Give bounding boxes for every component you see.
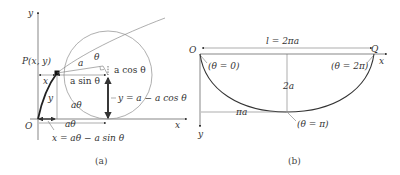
half-width-label: πa	[235, 107, 247, 117]
caption-a: (a)	[95, 156, 107, 166]
cycloid-figure: y x O P(x, y) a θ a cos θ a sin θ x y aθ…	[0, 0, 400, 175]
theta-start-label: (θ = 0)	[208, 61, 240, 71]
y-axis-label-b: y	[197, 129, 204, 139]
y-axis-label-a: y	[27, 8, 34, 18]
theta-mid-leader	[288, 113, 296, 121]
origin-label-a: O	[25, 121, 33, 131]
angle-label: θ	[94, 52, 100, 62]
x-axis-label-b: x	[379, 56, 384, 66]
figure-a: y x O P(x, y) a θ a cos θ a sin θ x y aθ…	[21, 8, 187, 166]
theta-mid-label: (θ = π)	[297, 119, 329, 129]
x-axis-label-a: x	[175, 120, 180, 130]
a-cos-label: a cos θ	[114, 65, 146, 75]
figure-b: O Q x y l = 2πa 2a πa (θ = 0) (θ = 2π) (…	[189, 36, 387, 166]
radius-label: a	[78, 58, 83, 68]
depth-label: 2a	[282, 81, 294, 91]
x-segment-label: x	[43, 76, 48, 86]
arc-label: aθ	[71, 100, 82, 110]
vertical-radius	[103, 66, 108, 75]
x-formula-leader	[48, 121, 54, 130]
cycloid-continuation	[57, 18, 165, 73]
y-segment-label: y	[47, 93, 54, 103]
origin-label-b: O	[189, 45, 197, 55]
x-formula: x = aθ − a sin θ	[52, 133, 125, 143]
end-label-q: Q	[371, 44, 379, 54]
a-sin-label: a sin θ	[70, 76, 100, 86]
theta-end-label: (θ = 2π)	[331, 61, 369, 71]
y-formula: y = a − a cos θ	[117, 93, 187, 103]
point-p-label: P(x, y)	[21, 56, 51, 66]
rolled-label: aθ	[65, 119, 76, 129]
caption-b: (b)	[288, 156, 301, 166]
length-label: l = 2πa	[266, 36, 299, 46]
